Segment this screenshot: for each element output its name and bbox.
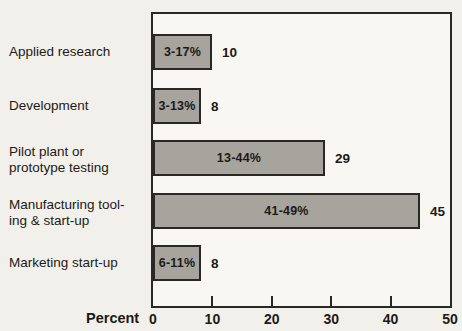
category-label: Development bbox=[9, 98, 151, 114]
bar-row: 3-17%10 bbox=[153, 34, 449, 70]
bar-row: 41-49%45 bbox=[153, 193, 449, 229]
x-tick-label: 20 bbox=[264, 311, 280, 327]
bar: 3-13% bbox=[153, 88, 201, 124]
bar-range-label: 3-13% bbox=[158, 99, 195, 113]
bar-range-label: 13-44% bbox=[217, 151, 261, 165]
x-axis-tick bbox=[330, 296, 332, 306]
x-tick-label: 30 bbox=[323, 311, 339, 327]
x-axis-title: Percent bbox=[86, 310, 139, 326]
category-label: Manufacturing tool- ing & start-up bbox=[9, 197, 151, 229]
bar-range-label: 6-11% bbox=[159, 256, 195, 270]
x-tick-label: 0 bbox=[149, 311, 157, 327]
bar-range-label: 41-49% bbox=[264, 204, 308, 218]
plot-area: 3-17%103-13%813-44%2941-49%456-11%8 bbox=[151, 12, 452, 308]
category-label: Applied research bbox=[9, 44, 151, 60]
bar-row: 3-13%8 bbox=[153, 88, 449, 124]
bar-value-label: 8 bbox=[211, 99, 219, 114]
bar-value-label: 10 bbox=[222, 45, 237, 60]
x-tick-label: 40 bbox=[383, 311, 399, 327]
bar-value-label: 8 bbox=[211, 256, 219, 271]
bar-row: 13-44%29 bbox=[153, 140, 449, 176]
bar: 41-49% bbox=[153, 193, 420, 229]
x-tick-label: 10 bbox=[205, 311, 221, 327]
x-tick-label: 50 bbox=[442, 311, 458, 327]
bar: 3-17% bbox=[153, 34, 212, 70]
bar-chart: Applied researchDevelopmentPilot plant o… bbox=[0, 0, 462, 331]
bar-range-label: 3-17% bbox=[164, 45, 201, 59]
x-axis-tick bbox=[390, 296, 392, 306]
category-label: Marketing start-up bbox=[9, 255, 151, 271]
x-axis-tick bbox=[211, 296, 213, 306]
category-label: Pilot plant or prototype testing bbox=[9, 144, 151, 176]
x-axis-tick bbox=[271, 296, 273, 306]
bar-row: 6-11%8 bbox=[153, 245, 449, 281]
bar-value-label: 29 bbox=[335, 151, 350, 166]
bar-value-label: 45 bbox=[430, 204, 445, 219]
bar: 13-44% bbox=[153, 140, 325, 176]
bar: 6-11% bbox=[153, 245, 201, 281]
